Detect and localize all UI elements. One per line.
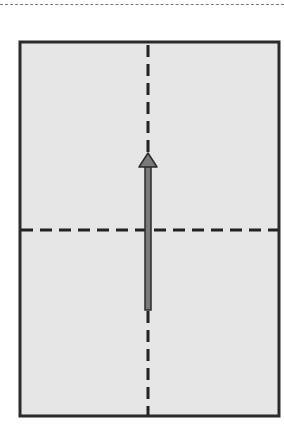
fold-diagram — [0, 0, 284, 427]
